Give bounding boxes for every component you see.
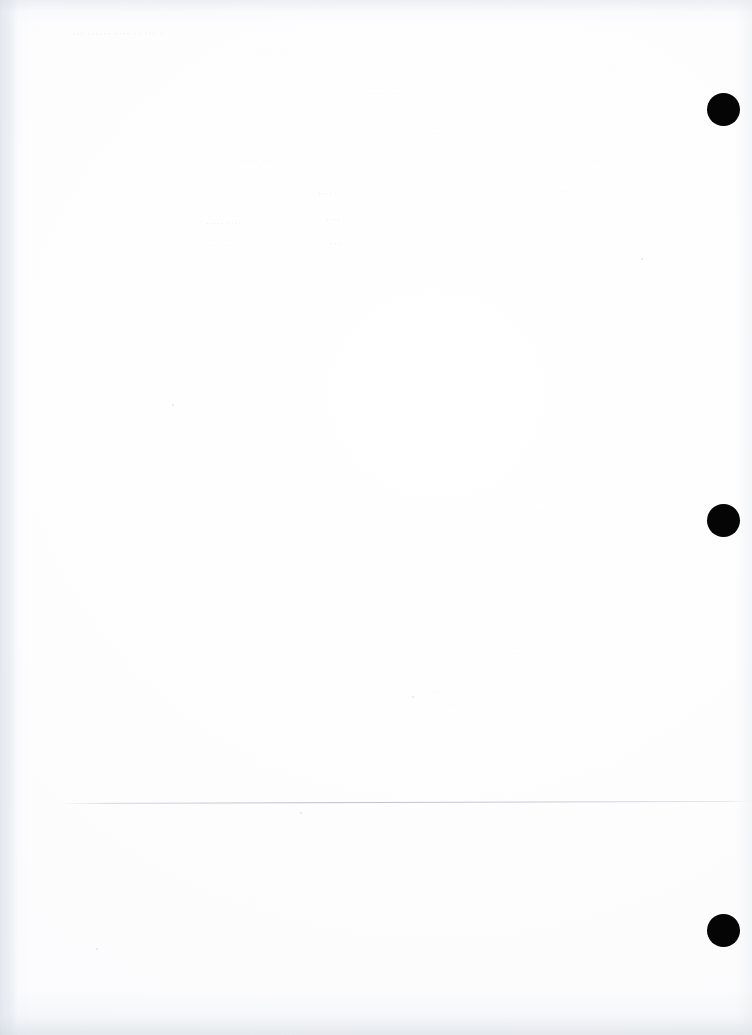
scan-speck	[172, 404, 174, 406]
paper-background	[0, 0, 752, 1035]
registration-mark-top-icon	[707, 93, 740, 126]
scan-speck	[641, 258, 643, 260]
left-edge-streak	[6, 0, 18, 1035]
scan-speck	[300, 812, 302, 814]
registration-mark-middle-icon	[707, 504, 740, 537]
registration-mark-bottom-icon	[707, 914, 740, 947]
bottom-edge-shadow	[0, 989, 752, 1035]
top-edge-shadow	[0, 0, 752, 26]
scanned-document-page: ··· ······ ···· ·· ··· ····· ·· ····· ··…	[0, 0, 752, 1035]
scan-speck	[412, 696, 414, 698]
scan-speck	[96, 948, 98, 950]
